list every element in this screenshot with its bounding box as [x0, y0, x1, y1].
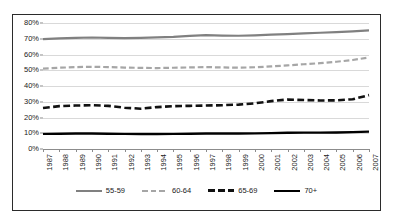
x-tick-label: 1993: [144, 154, 152, 171]
x-tick-label: 1997: [209, 154, 217, 171]
x-tick-mark: [320, 149, 321, 152]
y-tick-label: 70%: [24, 35, 39, 43]
x-tick-label: 1987: [46, 154, 54, 171]
x-tick-label: 1999: [242, 154, 250, 171]
x-tick-mark: [239, 149, 240, 152]
y-tick-label: 0%: [28, 145, 39, 153]
x-tick-mark: [157, 149, 158, 152]
x-tick-mark: [206, 149, 207, 152]
series-lines: [43, 23, 369, 149]
x-tick-label: 1988: [62, 154, 70, 171]
legend-swatch: [208, 189, 234, 192]
x-tick-label: 1996: [193, 154, 201, 171]
y-tick-label: 40%: [24, 82, 39, 90]
x-tick-mark: [353, 149, 354, 152]
x-tick-mark: [369, 149, 370, 152]
y-tick-label: 20%: [24, 114, 39, 122]
x-tick-mark: [288, 149, 289, 152]
x-tick-label: 1995: [176, 154, 184, 171]
x-tick-label: 1998: [225, 154, 233, 171]
y-tick-label: 10%: [24, 130, 39, 138]
x-tick-mark: [336, 149, 337, 152]
x-tick-mark: [304, 149, 305, 152]
x-tick-label: 2004: [323, 154, 331, 171]
y-tick-label: 50%: [24, 67, 39, 75]
x-tick-mark: [76, 149, 77, 152]
x-tick-mark: [92, 149, 93, 152]
series-line-65-69: [43, 95, 369, 109]
x-tick-label: 2007: [372, 154, 380, 171]
x-tick-mark: [108, 149, 109, 152]
x-tick-label: 1990: [95, 154, 103, 171]
y-tick-label: 60%: [24, 51, 39, 59]
x-tick-label: 1991: [111, 154, 119, 171]
legend-label: 60-64: [172, 187, 191, 195]
legend-entry-65-69[interactable]: 65-69: [208, 187, 257, 195]
x-tick-label: 1994: [160, 154, 168, 171]
x-tick-label: 2001: [274, 154, 282, 171]
legend-label: 55-59: [106, 187, 125, 195]
chart-frame: 0%10%20%30%40%50%60%70%80% 1987198819891…: [12, 14, 381, 211]
plot-region: 0%10%20%30%40%50%60%70%80%: [43, 23, 369, 149]
x-tick-label: 1989: [79, 154, 87, 171]
x-tick-mark: [190, 149, 191, 152]
x-tick-mark: [59, 149, 60, 152]
x-tick-mark: [125, 149, 126, 152]
y-tick-label: 30%: [24, 98, 39, 106]
legend-swatch: [274, 190, 300, 192]
x-tick-label: 2002: [291, 154, 299, 171]
legend-swatch: [142, 190, 168, 192]
x-tick-label: 1992: [128, 154, 136, 171]
legend-entry-55-59[interactable]: 55-59: [76, 187, 125, 195]
x-tick-mark: [141, 149, 142, 152]
legend-swatch: [76, 190, 102, 192]
series-line-70plus: [43, 132, 369, 134]
legend-entry-70plus[interactable]: 70+: [274, 187, 317, 195]
series-line-55-59: [43, 30, 369, 39]
legend-label: 70+: [304, 187, 317, 195]
x-tick-mark: [173, 149, 174, 152]
x-tick-mark: [255, 149, 256, 152]
x-tick-label: 2000: [258, 154, 266, 171]
y-tick-label: 80%: [24, 19, 39, 27]
x-tick-label: 2003: [307, 154, 315, 171]
series-line-60-64: [43, 57, 369, 68]
x-tick-mark: [271, 149, 272, 152]
x-tick-mark: [222, 149, 223, 152]
legend-entry-60-64[interactable]: 60-64: [142, 187, 191, 195]
chart-legend: 55-5960-6465-6970+: [13, 187, 380, 195]
x-tick-label: 2006: [356, 154, 364, 171]
x-tick-label: 2005: [339, 154, 347, 171]
x-tick-mark: [43, 149, 44, 152]
legend-label: 65-69: [238, 187, 257, 195]
